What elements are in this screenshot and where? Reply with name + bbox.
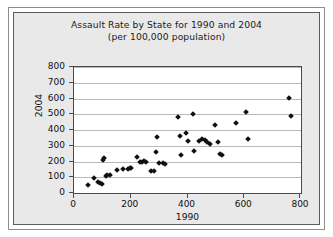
x-tick-mark-400 [187, 194, 188, 198]
gridline-y-100 [74, 177, 301, 178]
data-point [176, 115, 182, 121]
y-axis-tick-labels: 0100200300400500600700800 [32, 66, 69, 194]
y-tick-label-0: 0 [59, 187, 65, 197]
x-axis-tick-labels: 0200400600800 [73, 199, 302, 211]
data-point [177, 133, 183, 139]
y-tick-label-700: 700 [48, 77, 65, 87]
y-tick-label-800: 800 [48, 61, 65, 71]
chart-card: Assault Rate by State for 1990 and 2004 … [13, 12, 320, 225]
data-point [191, 148, 197, 154]
y-tick-label-400: 400 [48, 124, 65, 134]
data-point [286, 95, 292, 101]
y-tick-label-200: 200 [48, 156, 65, 166]
data-point [184, 130, 190, 136]
data-point [215, 139, 221, 145]
gridline-y-200 [74, 162, 301, 163]
gridline-y-600 [74, 99, 301, 100]
data-point [233, 120, 239, 126]
x-axis-tick-marks [73, 194, 302, 198]
data-point [212, 122, 218, 128]
data-point [219, 152, 225, 158]
gridline-y-500 [74, 114, 301, 115]
data-point [153, 149, 159, 155]
x-tick-mark-800 [299, 194, 300, 198]
x-axis-title: 1990 [73, 211, 302, 222]
data-point [99, 181, 105, 187]
data-point [154, 134, 160, 140]
x-tick-mark-200 [130, 194, 131, 198]
y-tick-label-500: 500 [48, 108, 65, 118]
figure-frame: Assault Rate by State for 1990 and 2004 … [8, 7, 325, 230]
chart-title-line1: Assault Rate by State for 1990 and 2004 [71, 19, 262, 30]
y-tick-label-600: 600 [48, 93, 65, 103]
x-tick-label-800: 800 [291, 199, 308, 209]
data-point [114, 167, 120, 173]
x-tick-label-600: 600 [235, 199, 252, 209]
data-point [185, 138, 191, 144]
data-point [245, 136, 251, 142]
y-tick-label-300: 300 [48, 140, 65, 150]
data-point [151, 168, 157, 174]
data-point [190, 111, 196, 117]
x-tick-mark-600 [243, 194, 244, 198]
gridline-y-800 [74, 67, 301, 68]
data-point [85, 182, 91, 188]
gridline-y-700 [74, 83, 301, 84]
x-tick-label-400: 400 [178, 199, 195, 209]
x-tick-label-0: 0 [70, 199, 76, 209]
data-point [178, 152, 184, 158]
plot-area [73, 66, 302, 194]
chart-title: Assault Rate by State for 1990 and 2004 … [14, 19, 319, 42]
chart-subtitle: (per 100,000 population) [14, 31, 319, 43]
x-tick-mark-0 [73, 194, 74, 198]
y-tick-label-100: 100 [48, 171, 65, 181]
gridline-y-300 [74, 146, 301, 147]
x-tick-label-200: 200 [121, 199, 138, 209]
